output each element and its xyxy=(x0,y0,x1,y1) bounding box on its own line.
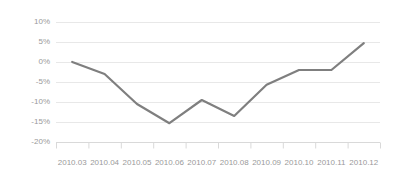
y-axis-tick-label: 10% xyxy=(6,17,50,27)
y-axis-tick-label: -5% xyxy=(6,77,50,87)
x-axis-tick-label: 2010.09 xyxy=(250,158,282,168)
y-axis-tick-label: -10% xyxy=(6,97,50,107)
y-axis-tick-label: 0% xyxy=(6,57,50,67)
y-axis-tick-label: 5% xyxy=(6,37,50,47)
x-axis-tick-label: 2010.10 xyxy=(283,158,315,168)
x-axis-tick-label: 2010.07 xyxy=(186,158,218,168)
x-axis-tick-label: 2010.12 xyxy=(348,158,380,168)
chart-plot-area xyxy=(0,0,396,176)
x-axis-tick-label: 2010.04 xyxy=(88,158,120,168)
line-chart: 10%5%0%-5%-10%-15%-20% 2010.032010.04201… xyxy=(0,0,396,176)
x-axis-tick-label: 2010.11 xyxy=(315,158,347,168)
x-axis-tick-marks xyxy=(57,143,381,149)
x-axis-tick-label: 2010.08 xyxy=(218,158,250,168)
x-axis-tick-label: 2010.03 xyxy=(56,158,88,168)
x-axis-tick-label: 2010.05 xyxy=(121,158,153,168)
gridlines xyxy=(56,23,380,143)
y-axis-tick-label: -20% xyxy=(6,137,50,147)
data-series-line xyxy=(72,43,364,123)
y-axis-tick-label: -15% xyxy=(6,117,50,127)
x-axis-tick-label: 2010.06 xyxy=(153,158,185,168)
